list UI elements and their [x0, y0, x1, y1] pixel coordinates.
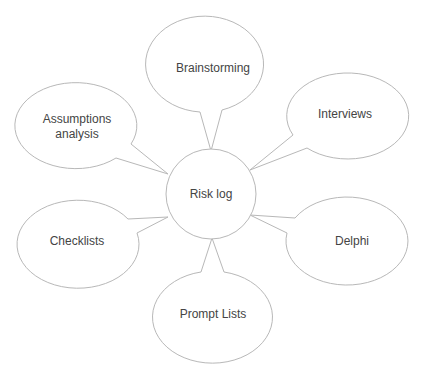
center-label: Risk log: [190, 187, 233, 201]
center-node-risk-log: Risk log: [166, 149, 256, 239]
node-label-line-1: Assumptions: [43, 112, 112, 126]
node-brainstorming: Brainstorming: [146, 16, 264, 151]
node-checklists: Checklists: [17, 200, 168, 288]
risk-identification-diagram: Brainstorming Assumptions analysis Inter…: [0, 0, 424, 370]
node-delphi: Delphi: [250, 197, 408, 285]
node-label-line-2: analysis: [55, 127, 98, 141]
node-label: Checklists: [50, 234, 105, 248]
node-label: Brainstorming: [176, 61, 250, 75]
node-interviews: Interviews: [250, 73, 409, 170]
node-label: Interviews: [318, 107, 372, 121]
node-assumptions-analysis: Assumptions analysis: [15, 83, 168, 174]
node-prompt-lists: Prompt Lists: [153, 238, 273, 363]
node-label: Prompt Lists: [180, 307, 247, 321]
node-label: Delphi: [335, 234, 369, 248]
